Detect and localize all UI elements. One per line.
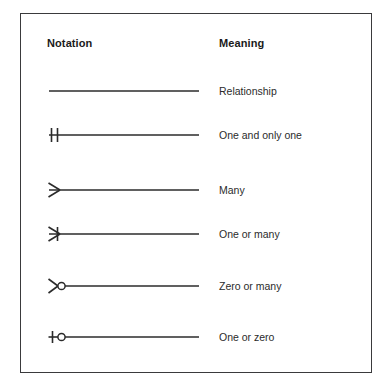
meaning-label: Relationship xyxy=(219,76,277,106)
notation-symbol-plain-line xyxy=(47,76,199,106)
legend-row: One or many xyxy=(21,219,371,249)
column-header-meaning: Meaning xyxy=(219,37,264,49)
notation-symbol-tick-circle-line xyxy=(47,322,199,352)
meaning-label: Zero or many xyxy=(219,271,281,301)
notation-symbol-double-tick-line xyxy=(47,120,199,150)
meaning-label: One and only one xyxy=(219,120,302,150)
meaning-label: One or many xyxy=(219,219,280,249)
notation-symbol-crowsfoot-line xyxy=(47,175,199,205)
notation-symbol-crowsfoot-tick-line xyxy=(47,219,199,249)
column-header-notation: Notation xyxy=(47,37,92,49)
legend-row: One and only one xyxy=(21,120,371,150)
legend-row: Zero or many xyxy=(21,271,371,301)
meaning-label: Many xyxy=(219,175,245,205)
legend-row: Relationship xyxy=(21,76,371,106)
legend-row: Many xyxy=(21,175,371,205)
legend-row: One or zero xyxy=(21,322,371,352)
meaning-label: One or zero xyxy=(219,322,274,352)
legend-frame: Notation Meaning Relationship One and on… xyxy=(20,13,372,373)
notation-symbol-crowsfoot-circle-line xyxy=(47,271,199,301)
